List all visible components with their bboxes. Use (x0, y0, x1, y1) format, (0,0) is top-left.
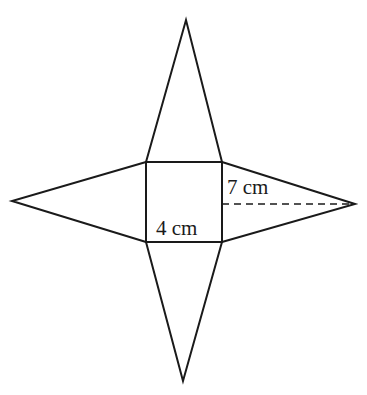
triangle-right (222, 162, 355, 242)
pyramid-net-svg: 7 cm 4 cm (0, 0, 367, 395)
slant-height-label: 7 cm (227, 175, 268, 199)
triangle-top (146, 20, 222, 162)
triangle-left (12, 162, 146, 242)
pyramid-net-diagram: 7 cm 4 cm (0, 0, 367, 395)
base-side-label: 4 cm (156, 216, 197, 240)
triangle-bottom (146, 242, 222, 381)
